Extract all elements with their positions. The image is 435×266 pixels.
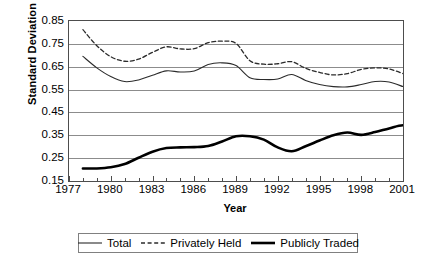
series-line-privately-held bbox=[83, 30, 403, 75]
chart-figure: Standard Deviation 0.850.750.650.550.450… bbox=[0, 0, 435, 266]
thick-solid-line-swatch bbox=[250, 238, 276, 248]
plot-area bbox=[68, 20, 404, 182]
series-line-publicly-traded bbox=[83, 125, 403, 168]
legend-label: Privately Held bbox=[170, 237, 241, 249]
thin-solid-line-swatch bbox=[77, 238, 103, 248]
legend-entry[interactable]: Privately Held bbox=[140, 237, 241, 249]
y-axis-tick-label: 0.45 bbox=[22, 106, 64, 117]
plot-canvas bbox=[69, 21, 403, 181]
legend-entry[interactable]: Publicly Traded bbox=[250, 237, 359, 249]
chart-legend: TotalPrivately HeldPublicly Traded bbox=[78, 233, 358, 253]
data-series-group bbox=[83, 30, 403, 169]
legend-entry[interactable]: Total bbox=[77, 237, 131, 249]
y-axis-tick-labels: 0.850.750.650.550.450.350.250.15 bbox=[22, 20, 64, 180]
x-axis-title: Year bbox=[68, 202, 402, 214]
dashed-line-swatch bbox=[140, 238, 166, 248]
y-axis-tick-label: 0.65 bbox=[22, 60, 64, 71]
y-axis-tick-label: 0.25 bbox=[22, 152, 64, 163]
x-axis-tick-label: 2001 bbox=[377, 183, 427, 195]
legend-label: Total bbox=[107, 237, 131, 249]
y-axis-tick-label: 0.75 bbox=[22, 37, 64, 48]
y-axis-tick-label: 0.55 bbox=[22, 83, 64, 94]
y-axis-tick-label: 0.85 bbox=[22, 15, 64, 26]
x-axis-tick-labels: 197719801983198619891992199519982001 bbox=[0, 183, 435, 199]
x-axis-minor-ticks bbox=[70, 176, 404, 181]
gridlines bbox=[69, 45, 403, 159]
legend-label: Publicly Traded bbox=[280, 237, 359, 249]
y-axis-tick-label: 0.35 bbox=[22, 129, 64, 140]
